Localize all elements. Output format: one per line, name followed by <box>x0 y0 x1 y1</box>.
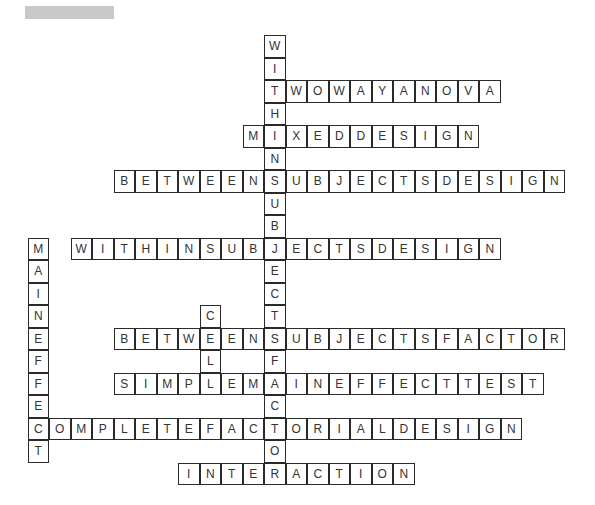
crossword-cell[interactable]: I <box>28 283 50 306</box>
crossword-cell[interactable]: S <box>264 328 286 351</box>
crossword-cell[interactable]: S <box>436 418 458 441</box>
crossword-cell[interactable]: C <box>243 418 265 441</box>
crossword-cell[interactable]: N <box>28 305 50 328</box>
crossword-cell[interactable]: E <box>28 328 50 351</box>
crossword-cell[interactable]: T <box>114 238 136 261</box>
crossword-cell[interactable]: Y <box>372 80 394 103</box>
crossword-cell[interactable]: B <box>114 328 136 351</box>
crossword-cell[interactable]: E <box>200 328 222 351</box>
crossword-cell[interactable]: L <box>372 418 394 441</box>
crossword-cell[interactable]: A <box>458 328 480 351</box>
crossword-cell[interactable]: M <box>28 238 50 261</box>
crossword-cell[interactable]: F <box>28 350 50 373</box>
crossword-cell[interactable]: W <box>264 35 286 58</box>
crossword-cell[interactable]: I <box>436 238 458 261</box>
crossword-cell[interactable]: C <box>415 373 437 396</box>
crossword-cell[interactable]: R <box>544 328 566 351</box>
crossword-cell[interactable]: H <box>135 238 157 261</box>
crossword-cell[interactable]: E <box>221 170 243 193</box>
crossword-cell[interactable]: T <box>157 418 179 441</box>
crossword-cell[interactable]: N <box>501 418 523 441</box>
crossword-cell[interactable]: E <box>415 418 437 441</box>
crossword-cell[interactable]: P <box>92 418 114 441</box>
crossword-cell[interactable]: E <box>178 418 200 441</box>
crossword-cell[interactable]: I <box>501 170 523 193</box>
crossword-cell[interactable]: F <box>264 350 286 373</box>
crossword-cell[interactable]: J <box>329 328 351 351</box>
crossword-cell[interactable]: E <box>372 125 394 148</box>
crossword-cell[interactable]: U <box>264 193 286 216</box>
crossword-cell[interactable]: T <box>393 170 415 193</box>
crossword-cell[interactable]: I <box>264 58 286 81</box>
crossword-cell[interactable]: E <box>135 170 157 193</box>
crossword-cell[interactable]: E <box>221 328 243 351</box>
crossword-cell[interactable]: O <box>522 328 544 351</box>
crossword-cell[interactable]: I <box>350 463 372 486</box>
crossword-cell[interactable]: A <box>350 418 372 441</box>
crossword-cell[interactable]: M <box>243 125 265 148</box>
crossword-cell[interactable]: O <box>372 463 394 486</box>
crossword-cell[interactable]: S <box>114 373 136 396</box>
crossword-cell[interactable]: R <box>307 418 329 441</box>
crossword-cell[interactable]: O <box>307 80 329 103</box>
crossword-cell[interactable]: S <box>479 170 501 193</box>
crossword-cell[interactable]: C <box>307 238 329 261</box>
crossword-cell[interactable]: B <box>243 238 265 261</box>
crossword-cell[interactable]: T <box>522 373 544 396</box>
crossword-cell[interactable]: E <box>135 328 157 351</box>
crossword-cell[interactable]: F <box>200 418 222 441</box>
crossword-cell[interactable]: I <box>178 463 200 486</box>
crossword-cell[interactable]: J <box>329 170 351 193</box>
crossword-cell[interactable]: C <box>264 283 286 306</box>
crossword-cell[interactable]: F <box>28 373 50 396</box>
crossword-cell[interactable]: D <box>393 418 415 441</box>
crossword-cell[interactable]: N <box>307 373 329 396</box>
crossword-cell[interactable]: S <box>264 170 286 193</box>
crossword-cell[interactable]: D <box>372 238 394 261</box>
crossword-cell[interactable]: F <box>350 373 372 396</box>
crossword-cell[interactable]: I <box>92 238 114 261</box>
crossword-cell[interactable]: T <box>221 463 243 486</box>
crossword-cell[interactable]: O <box>49 418 71 441</box>
crossword-cell[interactable]: G <box>522 170 544 193</box>
crossword-cell[interactable]: N <box>479 238 501 261</box>
crossword-cell[interactable]: S <box>501 373 523 396</box>
crossword-cell[interactable]: G <box>458 238 480 261</box>
crossword-cell[interactable]: C <box>307 463 329 486</box>
crossword-cell[interactable]: W <box>178 328 200 351</box>
crossword-cell[interactable]: U <box>286 328 308 351</box>
crossword-cell[interactable]: R <box>264 463 286 486</box>
crossword-cell[interactable]: F <box>436 328 458 351</box>
crossword-cell[interactable]: T <box>329 238 351 261</box>
crossword-cell[interactable]: E <box>307 125 329 148</box>
crossword-cell[interactable]: D <box>329 125 351 148</box>
crossword-cell[interactable]: U <box>286 170 308 193</box>
crossword-cell[interactable]: E <box>286 238 308 261</box>
crossword-cell[interactable]: I <box>135 373 157 396</box>
crossword-cell[interactable]: P <box>178 373 200 396</box>
crossword-cell[interactable]: T <box>157 170 179 193</box>
crossword-cell[interactable]: I <box>286 373 308 396</box>
crossword-cell[interactable]: A <box>28 260 50 283</box>
crossword-cell[interactable]: B <box>264 215 286 238</box>
crossword-cell[interactable]: A <box>221 418 243 441</box>
crossword-cell[interactable]: T <box>501 328 523 351</box>
crossword-cell[interactable]: E <box>243 463 265 486</box>
crossword-cell[interactable]: T <box>28 440 50 463</box>
crossword-cell[interactable]: N <box>544 170 566 193</box>
crossword-cell[interactable]: E <box>350 170 372 193</box>
crossword-cell[interactable]: I <box>329 418 351 441</box>
crossword-cell[interactable]: N <box>264 148 286 171</box>
crossword-cell[interactable]: D <box>436 170 458 193</box>
crossword-cell[interactable]: E <box>264 260 286 283</box>
crossword-cell[interactable]: I <box>458 418 480 441</box>
crossword-cell[interactable]: W <box>178 170 200 193</box>
crossword-cell[interactable]: C <box>372 170 394 193</box>
crossword-cell[interactable]: S <box>393 125 415 148</box>
crossword-cell[interactable]: T <box>329 463 351 486</box>
crossword-cell[interactable]: L <box>200 350 222 373</box>
crossword-cell[interactable]: H <box>264 103 286 126</box>
crossword-cell[interactable]: T <box>436 373 458 396</box>
crossword-cell[interactable]: S <box>415 328 437 351</box>
crossword-cell[interactable]: T <box>458 373 480 396</box>
